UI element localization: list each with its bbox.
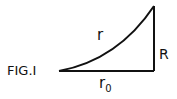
base-label-subscript: 0 xyxy=(105,83,111,94)
triangle-diagram xyxy=(0,0,177,99)
base-label: r0 xyxy=(99,76,112,94)
curve-label: r xyxy=(97,28,103,43)
vertical-label: R xyxy=(159,47,169,61)
curved-hypotenuse xyxy=(59,6,154,71)
figure-caption: FIG.I xyxy=(7,64,36,77)
